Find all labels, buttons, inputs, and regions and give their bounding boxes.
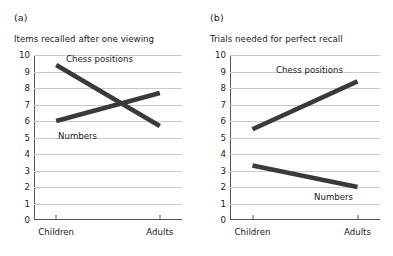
y-tick-label: 10 bbox=[215, 51, 226, 60]
y-tick-label: 4 bbox=[221, 150, 226, 159]
y-tick-label: 5 bbox=[25, 133, 30, 142]
x-tick-label: Adults bbox=[344, 227, 371, 237]
x-tick-label: Children bbox=[38, 227, 74, 237]
y-tick-label: 5 bbox=[221, 133, 226, 142]
panel-b-title: Trials needed for perfect recall bbox=[210, 34, 343, 45]
y-tick-label: 7 bbox=[221, 100, 226, 109]
y-tick-label: 1 bbox=[221, 199, 226, 208]
panel-b-chess-positions-label: Chess positions bbox=[276, 65, 343, 75]
y-tick-label: 1 bbox=[25, 199, 30, 208]
panel-b-letter: (b) bbox=[210, 12, 224, 23]
y-tick-label: 8 bbox=[25, 84, 30, 93]
panel-b-numbers-label: Numbers bbox=[314, 192, 353, 202]
panel-a-plot-area: 012345678910 ChildrenAdults Chess positi… bbox=[34, 55, 182, 220]
panel-a-series-lines bbox=[34, 55, 182, 220]
panel-b-series-lines bbox=[230, 55, 380, 220]
y-tick-label: 2 bbox=[25, 183, 30, 192]
y-tick-label: 4 bbox=[25, 150, 30, 159]
series-line-numbers bbox=[253, 166, 358, 187]
y-tick-label: 3 bbox=[221, 166, 226, 175]
y-tick-label: 0 bbox=[221, 216, 226, 225]
panel-a-numbers-label: Numbers bbox=[58, 131, 97, 141]
y-tick-label: 9 bbox=[221, 67, 226, 76]
figure-canvas: (a) Items recalled after one viewing 012… bbox=[0, 0, 393, 256]
y-tick-label: 3 bbox=[25, 166, 30, 175]
x-tick-label: Children bbox=[235, 227, 271, 237]
panel-a-letter: (a) bbox=[14, 12, 28, 23]
y-tick-label: 10 bbox=[19, 51, 30, 60]
y-tick-label: 6 bbox=[221, 117, 226, 126]
panel-a-title: Items recalled after one viewing bbox=[14, 34, 154, 45]
panel-b-plot-area: 012345678910 ChildrenAdults Chess positi… bbox=[230, 55, 380, 220]
y-tick-label: 7 bbox=[25, 100, 30, 109]
y-tick-label: 0 bbox=[25, 216, 30, 225]
panel-a: (a) Items recalled after one viewing 012… bbox=[0, 0, 196, 256]
y-tick-label: 6 bbox=[25, 117, 30, 126]
y-tick-label: 9 bbox=[25, 67, 30, 76]
series-line-chess-positions bbox=[253, 81, 358, 129]
y-tick-label: 8 bbox=[221, 84, 226, 93]
y-tick-label: 2 bbox=[221, 183, 226, 192]
x-tick-label: Adults bbox=[146, 227, 173, 237]
panel-a-chess-positions-label: Chess positions bbox=[66, 54, 133, 64]
panel-b: (b) Trials needed for perfect recall 012… bbox=[196, 0, 393, 256]
